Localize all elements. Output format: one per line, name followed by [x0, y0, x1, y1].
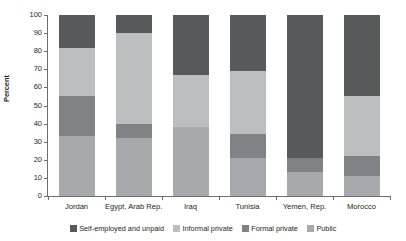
bar-segment [116, 124, 152, 138]
y-axis-label: Percent [2, 88, 11, 102]
bar-segment [344, 176, 380, 196]
bar-segment [173, 15, 209, 75]
y-axis-tick-label: 90 [34, 28, 42, 37]
x-axis-category-label: Iraq [162, 202, 219, 212]
x-axis-tick-mark [219, 196, 220, 200]
legend-swatch-icon [173, 225, 180, 232]
x-axis-tick-mark [48, 196, 49, 200]
x-axis-category-label: Morocco [333, 202, 390, 212]
y-axis-tick: 0 [0, 196, 48, 197]
legend-item: Public [307, 224, 336, 233]
legend-swatch-icon [307, 225, 314, 232]
bar-column [59, 15, 95, 196]
bar-segment [230, 158, 266, 196]
bar-column [116, 15, 152, 196]
bar-segment [116, 33, 152, 124]
bar-segment [230, 71, 266, 134]
y-axis-tick-label: 70 [34, 64, 42, 73]
bar-segment [59, 48, 95, 97]
bar-segment [59, 96, 95, 136]
bar-segment [344, 15, 380, 96]
plot-area [48, 15, 390, 196]
x-axis-category-label: Tunisia [219, 202, 276, 212]
y-axis-tick-label: 30 [34, 137, 42, 146]
legend-label: Formal private [251, 224, 298, 233]
y-axis-tick-label: 20 [34, 155, 42, 164]
bar-segment [230, 15, 266, 71]
bar-segment [173, 75, 209, 127]
legend-item: Informal private [173, 224, 233, 233]
x-axis-category-label: Yemen, Rep. [276, 202, 333, 212]
x-axis-tick-mark [333, 196, 334, 200]
y-axis-tick: 100 [0, 15, 48, 16]
legend-label: Self-employed and unpaid [79, 224, 164, 233]
legend-swatch-icon [242, 225, 249, 232]
y-axis-tick-label: 40 [34, 119, 42, 128]
y-axis-tick-label: 0 [38, 191, 42, 200]
bar-segment [287, 158, 323, 172]
y-axis-tick-label: 100 [29, 10, 42, 19]
bar-segment [59, 15, 95, 48]
legend-item: Self-employed and unpaid [70, 224, 164, 233]
y-axis-tick-label: 80 [34, 46, 42, 55]
x-axis-tick-mark [276, 196, 277, 200]
legend-swatch-icon [70, 225, 77, 232]
bar-segment [116, 138, 152, 196]
bar-segment [344, 156, 380, 176]
x-axis-tick-mark [162, 196, 163, 200]
y-axis-tick: 50 [0, 106, 48, 107]
y-axis-tick: 80 [0, 51, 48, 52]
bar-column [230, 15, 266, 196]
bar-segment [173, 127, 209, 196]
y-axis-tick-label: 60 [34, 82, 42, 91]
legend-label: Public [316, 224, 336, 233]
y-axis-tick: 40 [0, 124, 48, 125]
bar-column [173, 15, 209, 196]
legend-label: Informal private [182, 224, 232, 233]
x-axis-category-label: Egypt, Arab Rep. [105, 202, 162, 212]
bar-column [344, 15, 380, 196]
y-axis-tick-label: 50 [34, 101, 42, 110]
y-axis-tick-label: 10 [34, 173, 42, 182]
bar-segment [287, 15, 323, 158]
bar-segment [230, 134, 266, 158]
bar-segment [344, 96, 380, 156]
y-axis-tick: 90 [0, 33, 48, 34]
y-axis-tick: 20 [0, 160, 48, 161]
x-axis-tick-mark [105, 196, 106, 200]
bar-column [287, 15, 323, 196]
y-axis-tick: 60 [0, 87, 48, 88]
bar-segment [59, 136, 95, 196]
y-axis-tick: 10 [0, 178, 48, 179]
bar-segment [287, 172, 323, 196]
bar-segment [116, 15, 152, 33]
stacked-bar-chart: Percent 0102030405060708090100 JordanEgy… [0, 0, 406, 241]
x-axis-tick-mark [390, 196, 391, 200]
legend-item: Formal private [242, 224, 298, 233]
y-axis-tick: 70 [0, 69, 48, 70]
chart-legend: Self-employed and unpaidInformal private… [0, 224, 406, 233]
y-axis-tick: 30 [0, 142, 48, 143]
x-axis-category-label: Jordan [48, 202, 105, 212]
